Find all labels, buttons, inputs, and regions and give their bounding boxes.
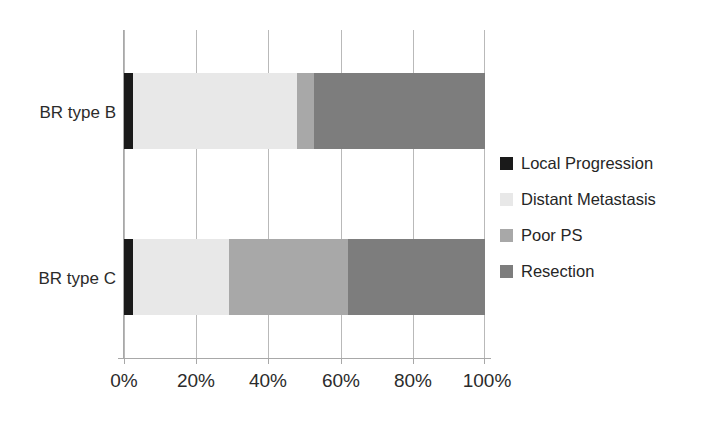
legend-swatch-icon-resection [500,265,513,278]
legend-item-poor-ps[interactable]: Poor PS [500,217,700,253]
bar-row-br-type-b [124,73,485,149]
xtick-label-80: 80% [394,370,432,392]
tick-100 [484,358,485,364]
legend-swatch-icon-poor-ps [500,229,513,242]
stacked-bar-chart: BR type B BR type C 0% 20% 40% 60% 80% 1… [0,0,707,421]
legend-swatch-icon-local-progression [500,157,513,170]
category-label-br-type-b: BR type B [8,103,116,123]
legend-label-poor-ps: Poor PS [521,226,582,244]
xtick-label-60: 60% [322,370,360,392]
tick-40 [268,358,269,364]
tick-20 [196,358,197,364]
xtick-label-20: 20% [177,370,215,392]
legend-item-local-progression[interactable]: Local Progression [500,145,700,181]
tick-0 [124,358,125,364]
bar-segment-b-poor-ps[interactable] [297,73,314,149]
bar-segment-c-resection[interactable] [348,239,485,315]
bar-row-br-type-c [124,239,485,315]
tick-60 [341,358,342,364]
chart-legend: Local Progression Distant Metastasis Poo… [500,145,700,289]
legend-item-distant-metastasis[interactable]: Distant Metastasis [500,181,700,217]
legend-label-distant-metastasis: Distant Metastasis [521,190,656,208]
xtick-label-40: 40% [249,370,287,392]
category-label-br-type-c: BR type C [8,269,116,289]
legend-swatch-icon-distant-metastasis [500,193,513,206]
tick-80 [413,358,414,364]
bar-segment-c-poor-ps[interactable] [229,239,348,315]
xtick-label-100: 100% [463,370,512,392]
bar-segment-b-resection[interactable] [314,73,485,149]
bar-segment-b-local-progression[interactable] [124,73,133,149]
x-axis-line [118,358,491,359]
xtick-label-0: 0% [110,370,137,392]
legend-label-local-progression: Local Progression [521,154,653,172]
legend-label-resection: Resection [521,262,594,280]
plot-area [124,30,485,358]
bar-segment-b-distant-metastasis[interactable] [133,73,297,149]
bar-segment-c-distant-metastasis[interactable] [133,239,229,315]
legend-item-resection[interactable]: Resection [500,253,700,289]
bar-segment-c-local-progression[interactable] [124,239,133,315]
